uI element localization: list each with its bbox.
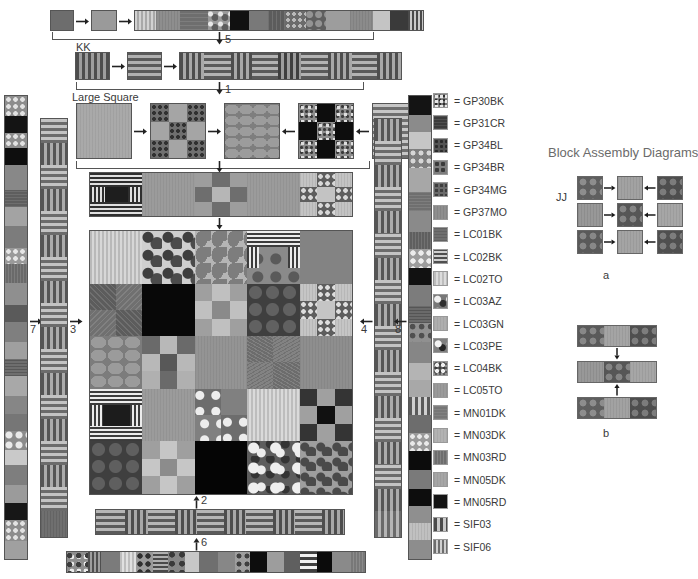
legend-item: = GP30BK	[433, 93, 504, 108]
legend-label: = LC03PE	[454, 340, 502, 352]
legend-item: = LC01BK	[433, 227, 502, 242]
legend-item: = MN05RD	[433, 494, 506, 509]
arrow-up-icon-6	[193, 538, 200, 551]
legend-swatch-lc02to	[433, 271, 448, 286]
diagram-b-row	[577, 397, 657, 419]
legend-swatch-mn03dk	[433, 428, 448, 443]
step-label-5: 5	[225, 34, 231, 45]
arrow-down-icon-5	[216, 32, 223, 45]
arrow-down-icon	[614, 348, 620, 360]
legend-item: = MN05DK	[433, 472, 506, 487]
quilt-block	[142, 336, 194, 389]
legend-item: = LC02TO	[433, 271, 503, 286]
top-band-row	[89, 172, 353, 217]
quilt-block	[300, 231, 352, 284]
step-label-2: 2	[201, 495, 207, 506]
legend-item: = MN03DK	[433, 428, 506, 443]
step-label-4: 4	[361, 324, 367, 335]
diagram-a-block	[657, 176, 683, 200]
quilt-block	[195, 284, 247, 337]
step-label-7: 7	[30, 324, 36, 335]
band-block	[195, 173, 247, 216]
arrow-right-icon	[112, 63, 126, 70]
diagram-b-row	[577, 361, 657, 383]
legend-swatch-gp34br	[433, 160, 448, 175]
large-square-block	[76, 103, 132, 159]
arrow-up-icon	[614, 384, 620, 396]
diagram-a-block	[577, 176, 603, 200]
legend-item: = GP37MO	[433, 205, 507, 220]
legend-swatch-mn05dk	[433, 472, 448, 487]
diagram-a-block	[617, 230, 643, 254]
band-block	[142, 173, 194, 216]
circles-block	[224, 103, 280, 159]
legend-item: = SIF03	[433, 517, 491, 532]
legend-item: = LC03GN	[433, 316, 504, 331]
arrow-right-icon	[604, 212, 616, 218]
diagram-a-block	[617, 203, 643, 227]
legend-item: = LC03AZ	[433, 294, 502, 309]
arrow-right-icon	[164, 63, 178, 70]
arrow-left-icon	[644, 185, 656, 191]
legend-item: = GP34BL	[433, 138, 503, 153]
legend-swatch-gp37mo	[433, 205, 448, 220]
checker-black-block	[298, 103, 354, 159]
band-block	[247, 173, 299, 216]
kk-seed-block-2	[91, 10, 117, 31]
legend-label: = SIF03	[454, 518, 491, 530]
arrow-right-icon	[604, 239, 616, 245]
legend-item: = GP34MG	[433, 182, 507, 197]
quilt-block	[90, 336, 142, 389]
legend-label: = LC03AZ	[454, 295, 502, 307]
quilt-block	[247, 441, 299, 494]
legend-swatch-gp34mg	[433, 182, 448, 197]
quilt-block	[195, 231, 247, 284]
band-block	[90, 173, 142, 216]
arrow-right-icon	[76, 18, 90, 25]
legend-swatch-mn03rd	[433, 450, 448, 465]
strip-7-vertical	[4, 95, 28, 560]
legend-label: = LC01BK	[454, 228, 502, 240]
quilt-block	[195, 389, 247, 442]
legend-swatch-lc03gn	[433, 316, 448, 331]
band-block	[300, 173, 352, 216]
arrow-down-icon-to-center	[216, 218, 223, 230]
bracket-large-square-row	[76, 161, 370, 169]
arrow-left-icon	[282, 128, 296, 135]
legend-label: = GP34BL	[454, 139, 503, 151]
legend-label: = LC02TO	[454, 273, 503, 285]
strip-2-horizontal	[95, 509, 345, 535]
legend-swatch-mn01dk	[433, 405, 448, 420]
legend-item: = LC03PE	[433, 338, 502, 353]
legend-label: = SIF06	[454, 541, 491, 553]
diagram-a-block	[657, 203, 683, 227]
jj-label: JJ	[556, 192, 567, 203]
legend-swatch-lc02bk	[433, 249, 448, 264]
arrow-left-icon	[644, 212, 656, 218]
block-assembly-title: Block Assembly Diagrams	[548, 145, 698, 160]
quilt-block	[90, 441, 142, 494]
legend-label: = LC03GN	[454, 318, 504, 330]
quilt-block	[300, 284, 352, 337]
quilt-block	[247, 284, 299, 337]
large-square-label: Large Square	[72, 92, 139, 103]
center-quilt-grid	[89, 230, 353, 495]
kk-seed-block-1	[50, 10, 74, 31]
quilt-block	[300, 336, 352, 389]
quilt-block	[90, 231, 142, 284]
quilt-block	[195, 336, 247, 389]
legend-item: = MN03RD	[433, 450, 506, 465]
quilt-block	[247, 231, 299, 284]
legend-swatch-gp30bk	[433, 93, 448, 108]
legend-label: = MN05RD	[454, 496, 506, 508]
arrow-right-icon	[604, 185, 616, 191]
quilt-block	[195, 441, 247, 494]
quilt-block	[90, 389, 142, 442]
kk-block-b	[127, 52, 162, 80]
legend-item: = GP31CR	[433, 115, 505, 130]
legend-item: = LC04BK	[433, 361, 502, 376]
step-label-1: 1	[225, 84, 231, 95]
legend-swatch-lc05to	[433, 383, 448, 398]
legend-label: = GP30BK	[454, 95, 504, 107]
quilt-block	[142, 389, 194, 442]
